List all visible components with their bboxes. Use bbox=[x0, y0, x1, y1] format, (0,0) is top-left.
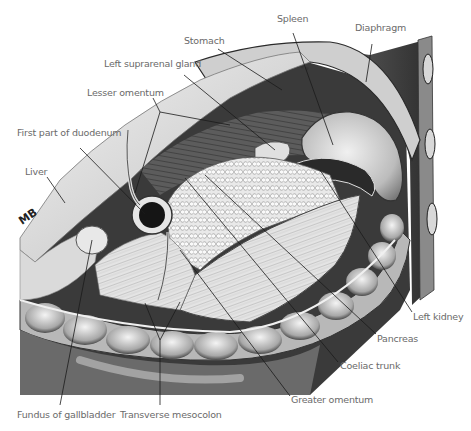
label-left-suprarenal-gland: Left suprarenal gland bbox=[104, 58, 201, 70]
anatomy-figure: MB Spleen Diaphragm Stomach Left suprare… bbox=[0, 0, 471, 431]
anatomy-illustration: MB bbox=[0, 0, 471, 431]
label-transverse-mesocolon: Transverse mesocolon bbox=[120, 409, 222, 421]
rib-3 bbox=[427, 203, 437, 235]
label-diaphragm: Diaphragm bbox=[355, 22, 406, 34]
rib-1 bbox=[423, 54, 433, 84]
label-coeliac-trunk: Coeliac trunk bbox=[340, 360, 400, 372]
duodenum-lumen bbox=[139, 202, 165, 228]
label-liver: Liver bbox=[25, 166, 47, 178]
label-stomach: Stomach bbox=[184, 35, 225, 47]
label-first-part-of-duodenum: First part of duodenum bbox=[17, 127, 121, 139]
label-left-kidney: Left kidney bbox=[413, 311, 463, 323]
label-pancreas: Pancreas bbox=[377, 333, 418, 345]
label-greater-omentum: Greater omentum bbox=[291, 394, 373, 406]
rib-2 bbox=[425, 129, 435, 159]
label-spleen: Spleen bbox=[277, 13, 308, 25]
label-lesser-omentum: Lesser omentum bbox=[87, 87, 164, 99]
label-fundus-of-gallbladder: Fundus of gallbladder bbox=[17, 409, 115, 421]
